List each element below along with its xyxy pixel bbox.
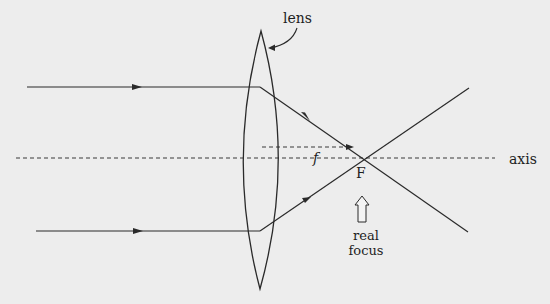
lens-pointer-arrowhead-icon — [268, 45, 275, 52]
lens-ray-diagram — [0, 0, 550, 304]
real-focus-caption: real focus — [346, 228, 386, 258]
lens-label: lens — [283, 10, 312, 26]
real-focus-caption-line1: real — [346, 228, 386, 243]
lens — [243, 31, 278, 289]
axis-label: axis — [509, 151, 537, 167]
real-focus-pointer-icon — [355, 196, 369, 222]
real-focus-caption-line2: focus — [346, 243, 386, 258]
lower-incident-arrow-icon — [133, 228, 143, 234]
focus-point-label: F — [356, 165, 366, 181]
upper-incident-arrow-icon — [132, 84, 142, 90]
focal-length-label: f — [313, 150, 318, 166]
lower-refracted-arrow-icon — [302, 197, 311, 203]
